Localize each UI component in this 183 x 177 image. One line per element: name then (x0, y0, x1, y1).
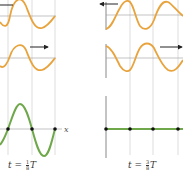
baselines (0, 16, 62, 129)
label-suffix: T (150, 160, 156, 170)
standing-wave-diagram: x (0, 0, 183, 177)
x-axis-label: x (64, 125, 69, 134)
fraction: 18 (26, 160, 29, 171)
fraction: 38 (146, 160, 149, 171)
right-panel (100, 0, 183, 158)
fraction-denominator: 8 (26, 166, 29, 171)
label-prefix: t = (8, 160, 25, 170)
baselines (106, 15, 183, 58)
time-label-right: t = 38T (128, 160, 156, 171)
fraction-denominator: 8 (146, 166, 149, 171)
label-suffix: T (30, 160, 36, 170)
left-panel: x (0, 0, 69, 156)
time-label-left: t = 18T (8, 160, 36, 171)
gridlines (130, 0, 178, 155)
label-prefix: t = (128, 160, 145, 170)
right-reflected-wave (106, 44, 183, 72)
